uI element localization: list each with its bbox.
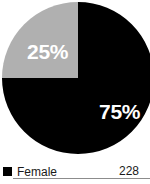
legend-swatch-icon bbox=[3, 167, 12, 176]
pie-label-25-percent: 25% bbox=[27, 41, 68, 62]
legend-item-value: 228 bbox=[119, 164, 139, 179]
chart-screenshot: 25% 75% Female 228 bbox=[0, 0, 150, 184]
chart-legend: Female 228 bbox=[0, 160, 150, 184]
legend-item-label: Female bbox=[17, 166, 57, 178]
pie-chart-svg bbox=[2, 2, 150, 156]
legend-divider bbox=[13, 178, 150, 179]
pie-chart: 25% 75% bbox=[0, 0, 150, 158]
pie-label-75-percent: 75% bbox=[99, 101, 140, 122]
